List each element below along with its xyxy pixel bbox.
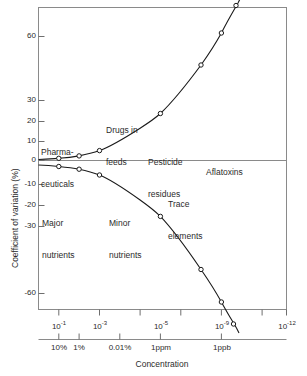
annotation-line: Trace: [168, 199, 203, 210]
y-tick-label-0: 0: [12, 155, 36, 165]
x-tick-base: 10: [278, 322, 287, 331]
annotation-aflatoxins: Aflatoxins: [206, 146, 243, 199]
y-tick-label-neg60: -60: [12, 288, 36, 298]
x-axis-ticks: [59, 310, 287, 316]
y-axis-title: Coefficient of variation (%): [10, 168, 20, 268]
x-tick-exponent: -3: [102, 320, 107, 326]
x-unit-label-1ppb: 1ppb: [207, 343, 237, 353]
x-tick-base: 10: [154, 322, 163, 331]
annotation-major-nutrients: Major nutrients: [42, 197, 75, 281]
y-tick-label-60: 60: [12, 31, 36, 41]
x-tick-label-1e-9: 10-9: [208, 318, 236, 332]
x-tick-base: 10: [93, 322, 102, 331]
annotation-line: Major: [42, 218, 75, 229]
x-tick-exponent: -5: [163, 320, 168, 326]
x-axis-title: Concentration: [112, 359, 212, 369]
chart-figure: 60 30 20 10 0 -10 -20 -30 -60 Coefficien…: [0, 0, 307, 376]
x-unit-label-1ppm: 1ppm: [146, 343, 176, 353]
x-tick-label-1e-12: 10-12: [272, 318, 302, 332]
x-tick-exponent: -1: [61, 320, 66, 326]
secondary-axis-ticks: [59, 334, 222, 340]
annotation-line: nutrients: [109, 250, 142, 261]
annotation-line: feeds: [106, 157, 138, 168]
annotation-line: Aflatoxins: [206, 167, 243, 178]
x-unit-label-001pct: 0.01%: [104, 343, 136, 353]
annotation-line: Minor: [109, 218, 142, 229]
x-tick-label-1e-5: 10-5: [147, 318, 175, 332]
x-tick-exponent: -12: [287, 320, 296, 326]
annotation-trace-elements: Trace elements: [168, 178, 203, 262]
annotation-drugs-in-feeds: Drugs in feeds: [106, 104, 138, 188]
annotation-line: Pharma-: [41, 147, 74, 158]
x-tick-label-1e-1: 10-1: [45, 318, 73, 332]
y-tick-label-30: 30: [12, 95, 36, 105]
annotation-line: Drugs in: [106, 125, 138, 136]
y-tick-label-10: 10: [12, 136, 36, 146]
y-tick-label-20: 20: [12, 116, 36, 126]
x-unit-label-1pct: 1%: [68, 343, 90, 353]
x-tick-base: 10: [52, 322, 61, 331]
annotation-line: ceuticals: [41, 179, 74, 190]
annotation-line: elements: [168, 231, 203, 242]
annotation-minor-nutrients: Minor nutrients: [109, 197, 142, 281]
x-tick-exponent: -9: [224, 320, 229, 326]
annotation-line: Pesticide: [148, 157, 183, 168]
x-tick-label-1e-3: 10-3: [86, 318, 114, 332]
annotation-line: nutrients: [42, 250, 75, 261]
x-tick-base: 10: [215, 322, 224, 331]
